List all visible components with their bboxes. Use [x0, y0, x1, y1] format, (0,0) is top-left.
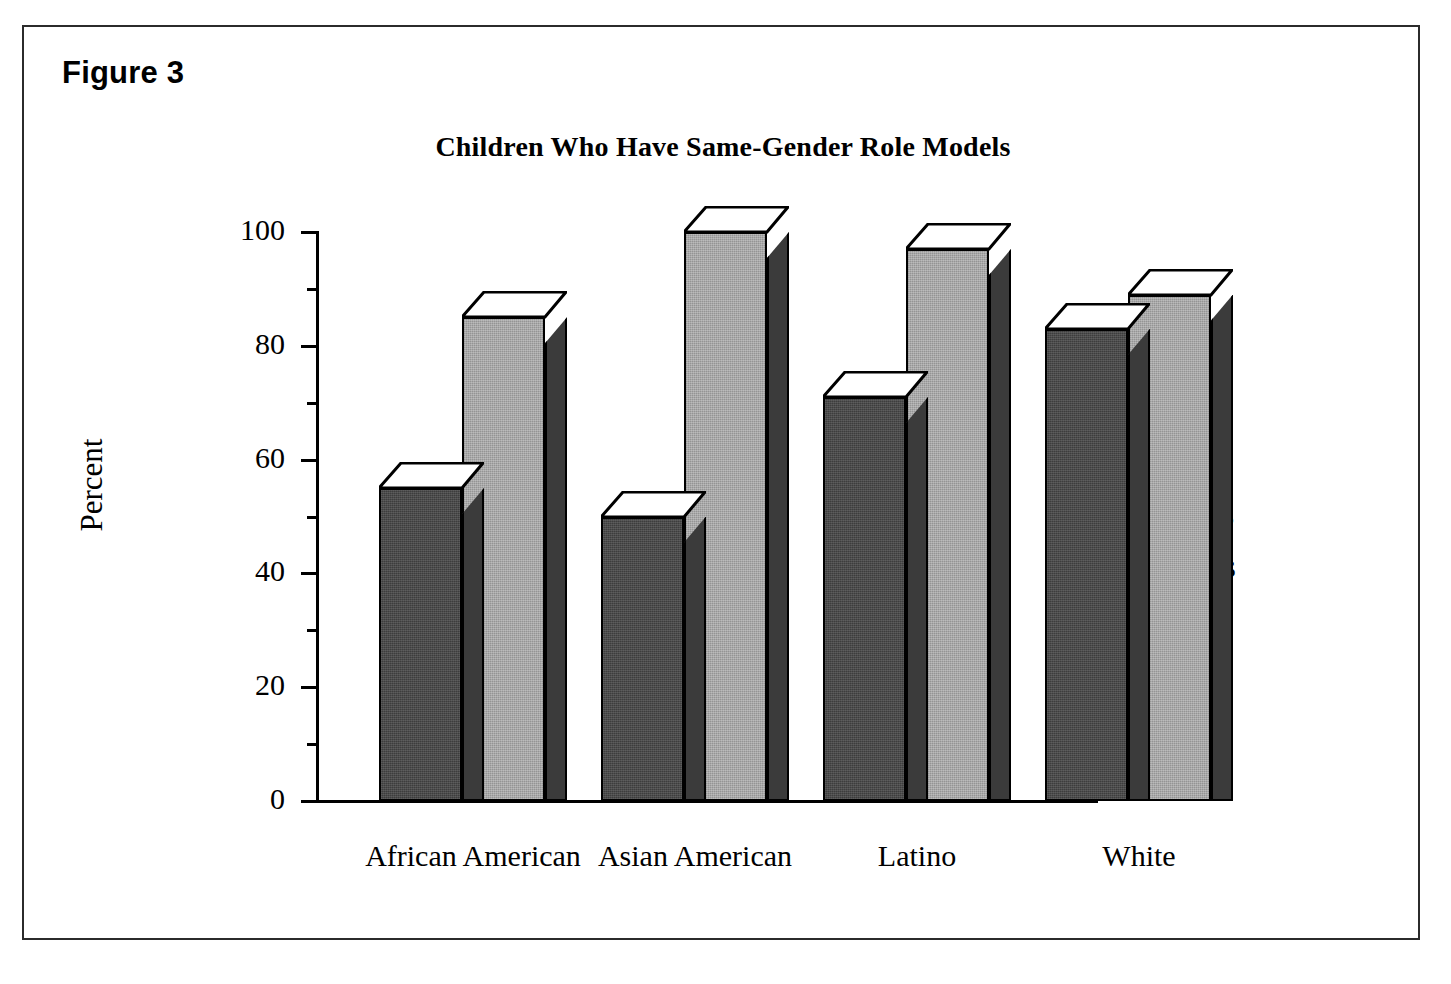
y-tick-minor [307, 288, 317, 291]
figure-root: Figure 3 Children Who Have Same-Gender R… [0, 0, 1451, 984]
bar-side-face [684, 517, 706, 802]
bar-top-face [379, 462, 484, 488]
bar-top-face [906, 223, 1011, 249]
y-tick-label: 100 [195, 215, 285, 245]
bar-top-face [601, 491, 706, 517]
bar-front-face [823, 397, 906, 801]
bar-side-face [1211, 295, 1233, 801]
y-tick-label: 80 [195, 329, 285, 359]
y-tick-minor [307, 516, 317, 519]
bar-side-face [545, 317, 567, 801]
bar-girls-asian-american [601, 491, 684, 802]
y-tick-label: 40 [195, 556, 285, 586]
bar-girls-latino [823, 371, 906, 801]
x-axis-label-african-american: African American [343, 839, 603, 873]
y-tick-label: 20 [195, 670, 285, 700]
y-tick-label: 0 [195, 784, 285, 814]
x-axis-label-latino: Latino [787, 839, 1047, 873]
bar-front-face [1045, 329, 1128, 801]
bar-side-face [989, 249, 1011, 801]
y-tick-major [301, 686, 317, 689]
y-tick-major [301, 572, 317, 575]
bar-top-face [823, 371, 928, 397]
y-tick-major [301, 345, 317, 348]
bar-side-face [767, 232, 789, 801]
bar-side-face [462, 488, 484, 801]
x-axis-label-asian-american: Asian American [565, 839, 825, 873]
x-axis-label-white: White [1009, 839, 1269, 873]
y-tick-major [301, 459, 317, 462]
figure-frame: Figure 3 Children Who Have Same-Gender R… [22, 25, 1420, 940]
plot-area: Percent 020406080100 African AmericanAsi… [24, 27, 1422, 942]
y-tick-minor [307, 402, 317, 405]
bar-side-face [1128, 329, 1150, 801]
bar-girls-white [1045, 303, 1128, 801]
bar-top-face [1045, 303, 1150, 329]
bar-top-face [462, 291, 567, 317]
bar-front-face [601, 517, 684, 802]
bar-side-face [906, 397, 928, 801]
y-tick-minor [307, 743, 317, 746]
y-tick-major [301, 800, 317, 803]
y-tick-minor [307, 629, 317, 632]
y-tick-label: 60 [195, 443, 285, 473]
bar-girls-african-american [379, 462, 462, 801]
bar-top-face [1128, 269, 1233, 295]
y-tick-major [301, 231, 317, 234]
bar-front-face [379, 488, 462, 801]
bar-top-face [684, 206, 789, 232]
y-axis-title: Percent [74, 355, 110, 615]
